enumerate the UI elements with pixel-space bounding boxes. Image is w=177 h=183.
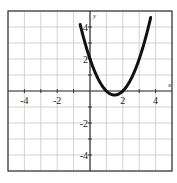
x-tick-label: -2 <box>53 95 61 106</box>
y-tick-label: 2 <box>83 54 88 65</box>
y-axis-label: y <box>92 12 97 20</box>
parabola-curve <box>80 18 151 95</box>
y-tick-label: -2 <box>80 118 88 129</box>
x-axis-label: x <box>167 81 172 89</box>
x-tick-label: -4 <box>20 95 28 106</box>
graph: -4-22442-2-4 x y <box>0 0 177 183</box>
x-tick-label: 4 <box>153 95 158 106</box>
x-tick-label: 2 <box>120 95 125 106</box>
y-tick-label: -4 <box>80 150 88 161</box>
y-tick-label: 4 <box>83 22 88 33</box>
